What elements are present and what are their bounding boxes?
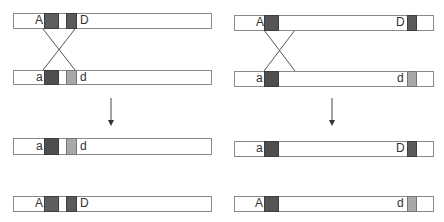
- locus-label: a: [256, 142, 263, 155]
- dark-locus-block: [66, 13, 77, 29]
- locus-label: D: [396, 142, 405, 155]
- left-before-chromosome-2: a d: [13, 70, 212, 85]
- left-down-arrow-icon: [108, 98, 114, 126]
- locus-label: a: [36, 140, 43, 153]
- locus-label: A: [35, 14, 43, 27]
- light-locus-block: [407, 71, 417, 87]
- right-before-chromosome-2: a d: [234, 71, 434, 87]
- locus-label: d: [397, 197, 404, 210]
- left-crossover: [43, 29, 75, 70]
- dark-locus-block: [264, 141, 279, 157]
- right-after-chromosome-1: a D: [234, 141, 434, 157]
- locus-label: A: [256, 16, 264, 29]
- dark-locus-block: [407, 15, 417, 31]
- locus-label: A: [35, 197, 43, 210]
- crossover-lines-and-arrows: [0, 0, 444, 222]
- dark-locus-block: [264, 71, 279, 87]
- dark-locus-block: [44, 13, 59, 29]
- dark-locus-block: [44, 196, 59, 212]
- dark-locus-block: [44, 70, 59, 85]
- locus-label: d: [397, 72, 404, 85]
- dark-locus-block: [264, 15, 279, 31]
- right-crossover: [264, 30, 295, 71]
- left-before-chromosome-1: A D: [13, 13, 212, 29]
- dark-locus-block: [66, 196, 77, 212]
- locus-label: D: [396, 16, 405, 29]
- dark-locus-block: [407, 141, 417, 157]
- light-locus-block: [66, 70, 77, 85]
- locus-label: D: [80, 14, 89, 27]
- locus-label: a: [36, 71, 43, 84]
- left-after-chromosome-1: a d: [13, 138, 212, 155]
- locus-label: a: [256, 72, 263, 85]
- dark-locus-block: [44, 138, 59, 155]
- right-after-chromosome-2: A d: [234, 196, 434, 212]
- locus-label: d: [80, 71, 87, 84]
- left-after-chromosome-2: A D: [13, 196, 212, 212]
- locus-label: D: [80, 197, 89, 210]
- right-down-arrow-icon: [329, 98, 335, 126]
- light-locus-block: [407, 196, 417, 212]
- locus-label: d: [80, 140, 87, 153]
- light-locus-block: [66, 138, 77, 155]
- dark-locus-block: [264, 196, 279, 212]
- locus-label: A: [255, 197, 263, 210]
- right-before-chromosome-1: A D: [234, 15, 434, 31]
